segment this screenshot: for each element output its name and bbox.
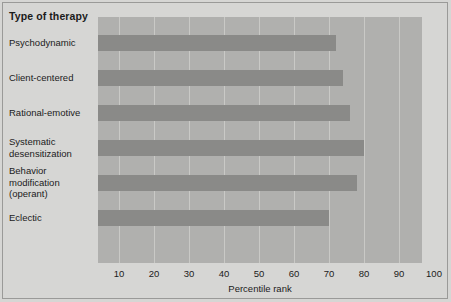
category-label: Client-centered	[9, 72, 73, 84]
x-tick-label: 40	[219, 268, 230, 279]
x-axis-title: Percentile rank	[228, 283, 291, 294]
x-tick-label: 20	[149, 268, 160, 279]
category-label: Psychodynamic	[9, 37, 76, 49]
category-label: Behavior modification (operant)	[9, 165, 60, 200]
x-tick-label: 90	[394, 268, 405, 279]
x-tick-label: 80	[359, 268, 370, 279]
gridline-90	[399, 17, 400, 263]
category-label: Systematic desensitization	[9, 136, 72, 159]
bar	[98, 175, 357, 191]
category-label: Rational-emotive	[9, 107, 80, 119]
x-tick-label: 30	[184, 268, 195, 279]
category-label: Eclectic	[9, 212, 42, 224]
x-tick-label: 60	[289, 268, 300, 279]
x-tick-label: 10	[114, 268, 125, 279]
bar	[98, 140, 364, 156]
bar	[98, 105, 350, 121]
x-tick-label: 100	[426, 268, 442, 279]
bar	[98, 210, 329, 226]
bar	[98, 35, 336, 51]
chart-figure: Type of therapy Percentile rank Psychody…	[0, 0, 451, 302]
category-axis-title: Type of therapy	[9, 10, 88, 22]
x-tick-label: 50	[254, 268, 265, 279]
x-tick-label: 70	[324, 268, 335, 279]
plot-area	[98, 17, 422, 263]
bar	[98, 70, 343, 86]
gridline-80	[364, 17, 365, 263]
